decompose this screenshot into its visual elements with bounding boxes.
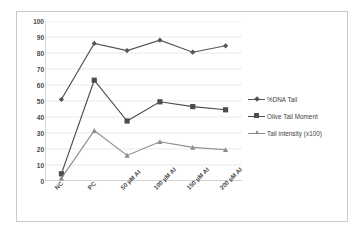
x-axis-tick-label: 100 µM AI xyxy=(152,166,177,191)
legend-key xyxy=(248,94,265,104)
chart-legend: %DNA TailOlive Tail MomentTail intensity… xyxy=(248,92,344,143)
x-axis-tick-label: 50 µM AI xyxy=(119,168,142,191)
x-axis-tick-label: PC xyxy=(86,180,97,191)
triangle-marker-icon xyxy=(255,130,259,134)
legend-key xyxy=(248,111,265,121)
legend-key xyxy=(248,128,265,138)
x-axis-tick-label: NC xyxy=(53,180,64,191)
square-marker-icon xyxy=(254,113,259,118)
legend-label: Olive Tail Moment xyxy=(267,113,318,120)
legend-item[interactable]: Olive Tail Moment xyxy=(248,109,344,123)
x-axis-tick-label: 200 µM AI xyxy=(218,166,243,191)
diamond-marker-icon xyxy=(254,96,260,102)
legend-label: %DNA Tail xyxy=(267,96,297,103)
legend-item[interactable]: %DNA Tail xyxy=(248,92,344,106)
x-axis-tick-label: 150 µM AI xyxy=(185,166,210,191)
legend-item[interactable]: Tail intensity (x100) xyxy=(248,126,344,140)
chart-screenshot: 1009080706050403020100 NCPC50 µM AI100 µ… xyxy=(0,0,362,235)
legend-label: Tail intensity (x100) xyxy=(267,130,322,137)
